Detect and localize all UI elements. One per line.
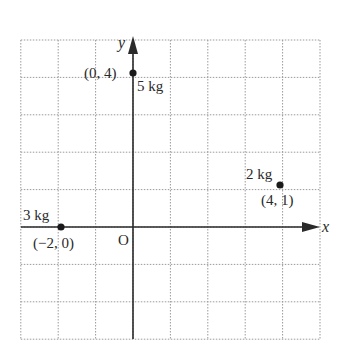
x-axis-label: x — [321, 218, 329, 235]
y-axis-label: y — [116, 34, 126, 52]
point-marker-icon — [57, 223, 64, 230]
point-coord-label: (0, 4) — [84, 65, 117, 82]
point-mass-label: 5 kg — [137, 78, 164, 94]
point-mass-label: 2 kg — [246, 166, 273, 182]
point-marker-icon — [129, 69, 136, 76]
y-axis: y — [116, 34, 138, 339]
point-coord-label: (−2, 0) — [33, 235, 74, 252]
x-axis-arrow-icon — [302, 222, 320, 232]
point-mass-2kg: 2 kg (4, 1) — [246, 166, 294, 209]
origin-label: O — [118, 232, 129, 248]
coordinate-plane: x y O (0, 4) 5 kg 2 kg (4, 1) 3 kg (−2, … — [0, 0, 340, 359]
point-coord-label: (4, 1) — [261, 192, 294, 209]
point-mass-label: 3 kg — [23, 207, 50, 223]
dotted-grid — [21, 40, 320, 339]
point-marker-icon — [276, 181, 283, 188]
point-mass-3kg: 3 kg (−2, 0) — [23, 207, 74, 252]
y-axis-arrow-icon — [128, 36, 138, 54]
point-mass-5kg: (0, 4) 5 kg — [84, 65, 164, 94]
